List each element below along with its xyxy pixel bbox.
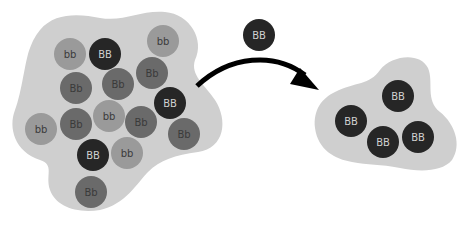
genotype-label: BB	[376, 137, 390, 148]
genotype-label: BB	[344, 116, 358, 127]
genotype-label: bb	[103, 111, 116, 122]
genotype-label: BB	[252, 30, 266, 41]
left-individual-Bb: Bb	[102, 68, 134, 100]
left-individual-BB: BB	[77, 139, 109, 171]
genotype-label: Bb	[177, 129, 190, 140]
genotype-label: BB	[86, 150, 100, 161]
genotype-label: bb	[157, 36, 170, 47]
left-individual-BB: BB	[154, 87, 186, 119]
migration-arrow	[197, 60, 319, 90]
genotype-label: Bb	[69, 119, 82, 130]
left-individual-bb: bb	[54, 38, 86, 70]
left-individual-Bb: Bb	[75, 176, 107, 208]
genotype-label: BB	[163, 98, 177, 109]
left-individual-bb: bb	[93, 100, 125, 132]
right-individual-BB: BB	[402, 121, 434, 153]
founder-effect-diagram: bbBBbbBbBbBbBBbbBbBbbbBbBBbbBbBBBBBBBBBB	[0, 0, 471, 230]
left-individual-Bb: Bb	[60, 108, 92, 140]
left-individual-Bb: Bb	[125, 106, 157, 138]
genotype-label: Bb	[84, 187, 97, 198]
right-individual-BB: BB	[367, 126, 399, 158]
left-individual-Bb: Bb	[168, 118, 200, 150]
migrant-individual-BB: BB	[243, 19, 275, 51]
genotype-label: BB	[411, 132, 425, 143]
genotype-label: Bb	[145, 68, 158, 79]
left-individual-bb: bb	[111, 137, 143, 169]
right-individual-BB: BB	[335, 105, 367, 137]
genotype-label: bb	[64, 49, 77, 60]
genotype-label: BB	[98, 49, 112, 60]
genotype-label: Bb	[69, 83, 82, 94]
left-individual-BB: BB	[89, 38, 121, 70]
left-individual-Bb: Bb	[60, 72, 92, 104]
left-individual-bb: bb	[25, 113, 57, 145]
left-individual-Bb: Bb	[136, 57, 168, 89]
genotype-label: Bb	[111, 79, 124, 90]
left-individual-bb: bb	[147, 25, 179, 57]
right-individual-BB: BB	[382, 80, 414, 112]
genotype-label: bb	[121, 148, 134, 159]
genotype-label: Bb	[134, 117, 147, 128]
genotype-label: bb	[35, 124, 48, 135]
genotype-label: BB	[391, 91, 405, 102]
